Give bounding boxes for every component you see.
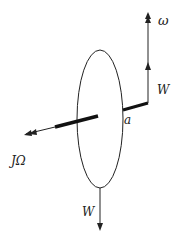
gyroscope-diagram: ω W a JΩ W xyxy=(0,0,180,239)
weight-arrowhead-up xyxy=(145,62,151,70)
weight-arrowhead-down xyxy=(97,223,103,231)
angular-momentum-label: JΩ xyxy=(8,154,26,168)
weight-label-bottom: W xyxy=(82,205,96,219)
omega-label: ω xyxy=(158,13,169,28)
arm-label: a xyxy=(124,113,131,127)
axle-thick xyxy=(55,116,98,127)
weight-label-top: W xyxy=(157,83,171,97)
arm-segment xyxy=(123,103,148,110)
